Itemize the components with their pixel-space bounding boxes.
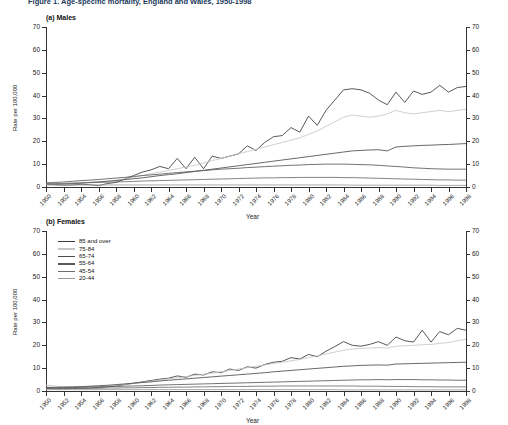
y-tick-label-right: 60 <box>472 46 488 53</box>
x-tick <box>116 392 117 396</box>
y-tick-label-right: 20 <box>472 341 488 348</box>
x-tick <box>326 188 327 192</box>
y-tick-label-right: 50 <box>472 69 488 76</box>
x-tick-label: 1980 <box>298 193 315 210</box>
x-tick-label: 1992 <box>403 397 420 414</box>
y-tick-left <box>42 96 46 97</box>
y-tick-label-right: 40 <box>472 92 488 99</box>
legend-swatch <box>58 263 75 264</box>
x-tick-label: 1990 <box>385 397 402 414</box>
legend-item[interactable]: 85 and over <box>58 238 111 245</box>
y-tick-right <box>466 141 470 142</box>
x-tick-label: 1994 <box>420 193 437 210</box>
x-tick-label: 1970 <box>210 397 227 414</box>
y-tick-label-right: 0 <box>472 387 488 394</box>
x-tick <box>169 392 170 396</box>
x-tick <box>379 392 380 396</box>
legend-item[interactable]: 75-84 <box>58 245 111 252</box>
y-tick-label-right: 10 <box>472 160 488 167</box>
y-tick-left <box>42 345 46 346</box>
chart-panel-females: (b) Females 0010102020303040405050606070… <box>0 218 508 423</box>
x-tick <box>134 188 135 192</box>
y-tick-label-left: 60 <box>24 250 40 257</box>
y-tick-label-right: 60 <box>472 250 488 257</box>
legend-item[interactable]: 45-54 <box>58 268 111 275</box>
legend-swatch <box>58 248 75 249</box>
legend-label: 65-74 <box>79 253 94 260</box>
y-tick-right <box>466 300 470 301</box>
y-tick-label-left: 20 <box>24 341 40 348</box>
x-tick <box>396 188 397 192</box>
x-tick-label: 1962 <box>140 397 157 414</box>
y-tick-label-left: 50 <box>24 273 40 280</box>
y-tick-right <box>466 96 470 97</box>
x-tick-label: 1976 <box>263 397 280 414</box>
x-tick <box>239 188 240 192</box>
y-tick-left <box>42 164 46 165</box>
chart-legend: 85 and over75-8465-7455-6445-5420-44 <box>58 238 111 282</box>
x-tick <box>379 188 380 192</box>
y-tick-label-left: 10 <box>24 160 40 167</box>
y-tick-left <box>42 73 46 74</box>
x-tick <box>344 392 345 396</box>
x-tick-label: 1956 <box>88 193 105 210</box>
x-tick <box>204 392 205 396</box>
legend-item[interactable]: 55-64 <box>58 260 111 267</box>
y-tick-left <box>42 118 46 119</box>
y-axis-label: Rate per 100,000 <box>12 85 18 131</box>
x-tick-label: 1954 <box>70 397 87 414</box>
y-tick-right <box>466 164 470 165</box>
legend-label: 45-54 <box>79 268 94 275</box>
x-tick <box>309 392 310 396</box>
y-tick-right <box>466 254 470 255</box>
y-tick-label-right: 0 <box>472 183 488 190</box>
x-tick-label: 1984 <box>333 193 350 210</box>
x-tick <box>186 392 187 396</box>
y-tick-label-left: 70 <box>24 227 40 234</box>
x-tick-label: 1982 <box>315 193 332 210</box>
y-tick-left <box>42 187 46 188</box>
x-tick-label: 1996 <box>438 193 455 210</box>
x-tick <box>46 188 47 192</box>
y-tick-right <box>466 277 470 278</box>
x-tick-label: 1992 <box>403 193 420 210</box>
x-tick-label: 1958 <box>105 397 122 414</box>
x-tick <box>186 188 187 192</box>
x-tick-label: 1968 <box>193 193 210 210</box>
x-tick-label: 1998 <box>455 397 472 414</box>
x-tick <box>466 392 467 396</box>
y-tick-left <box>42 50 46 51</box>
x-tick <box>344 188 345 192</box>
x-tick-label: 1986 <box>350 193 367 210</box>
legend-label: 75-84 <box>79 246 94 253</box>
legend-item[interactable]: 65-74 <box>58 253 111 260</box>
x-tick-label: 1986 <box>350 397 367 414</box>
x-tick-label: 1990 <box>385 193 402 210</box>
panel-title-males: (a) Males <box>46 14 76 21</box>
x-tick-label: 1960 <box>123 397 140 414</box>
x-tick <box>414 188 415 192</box>
legend-item[interactable]: 20-44 <box>58 275 111 282</box>
x-tick-label: 1966 <box>175 397 192 414</box>
x-tick-label: 1976 <box>263 193 280 210</box>
x-tick-label: 1952 <box>53 193 70 210</box>
y-tick-label-right: 70 <box>472 23 488 30</box>
x-tick <box>396 392 397 396</box>
y-tick-right <box>466 27 470 28</box>
x-tick <box>431 392 432 396</box>
x-tick <box>361 188 362 192</box>
y-tick-left <box>42 27 46 28</box>
y-tick-right <box>466 231 470 232</box>
y-tick-label-left: 30 <box>24 318 40 325</box>
x-tick <box>291 392 292 396</box>
x-tick-label: 1964 <box>158 397 175 414</box>
x-tick <box>46 392 47 396</box>
x-tick <box>116 188 117 192</box>
x-tick <box>204 188 205 192</box>
y-tick-label-left: 60 <box>24 46 40 53</box>
figure-title: Figure 1. Age-specific mortality, Englan… <box>28 0 252 6</box>
y-tick-right <box>466 73 470 74</box>
x-tick <box>221 392 222 396</box>
x-tick-label: 1954 <box>70 193 87 210</box>
y-tick-label-left: 20 <box>24 137 40 144</box>
